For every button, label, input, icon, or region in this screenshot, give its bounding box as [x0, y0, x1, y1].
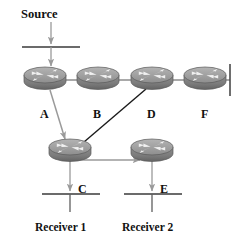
- router-label-d: D: [147, 108, 156, 120]
- router-label-f: F: [201, 108, 208, 120]
- router-c[interactable]: [49, 139, 91, 162]
- router-f[interactable]: [184, 67, 226, 90]
- network-diagram: Source A B D F C E Receiver 1 Receiver 2: [0, 0, 246, 243]
- source-link: [22, 22, 80, 66]
- receiver-1-label: Receiver 1: [35, 222, 86, 234]
- router-label-e: E: [160, 183, 168, 195]
- router-d[interactable]: [131, 67, 173, 90]
- router-a[interactable]: [24, 67, 66, 90]
- router-label-b: B: [93, 108, 101, 120]
- link-a-to-c: [50, 90, 65, 139]
- receiver2-link: [124, 160, 182, 212]
- router-label-c: C: [78, 183, 87, 195]
- receiver1-link: [42, 160, 100, 212]
- router-label-a: A: [40, 108, 49, 120]
- receiver-2-label: Receiver 2: [122, 222, 173, 234]
- diagram-canvas: [0, 0, 246, 243]
- router-b[interactable]: [77, 67, 119, 90]
- source-label: Source: [21, 8, 58, 21]
- router-e[interactable]: [131, 139, 173, 162]
